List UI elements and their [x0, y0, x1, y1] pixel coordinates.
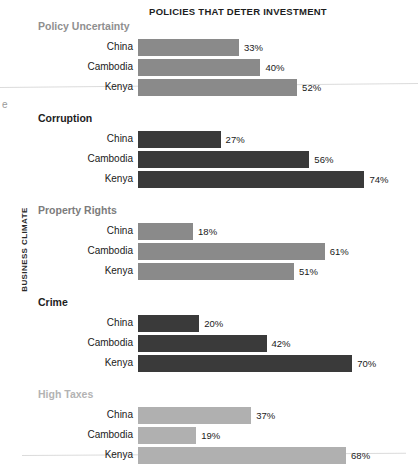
bar-value-label: 27%	[226, 134, 245, 145]
bar-category-label: China	[0, 225, 133, 236]
bar-value-label: 68%	[351, 450, 370, 461]
bar	[138, 59, 260, 76]
bar	[138, 335, 267, 352]
bar-value-label: 33%	[244, 42, 263, 53]
bar-row: Kenya70%	[0, 355, 418, 372]
chart-group: Policy UncertaintyChina33%Cambodia40%Ken…	[0, 20, 418, 99]
bar-value-label: 74%	[369, 174, 388, 185]
bar-category-label: Cambodia	[0, 153, 133, 164]
bar	[138, 243, 325, 260]
bar	[138, 39, 239, 56]
bar-row: Kenya74%	[0, 171, 418, 188]
bar-value-label: 19%	[201, 430, 220, 441]
bar-value-label: 37%	[256, 410, 275, 421]
bar-category-label: China	[0, 317, 133, 328]
chart-title: POLICIES THAT DETER INVESTMENT	[118, 6, 358, 17]
bar-row: Kenya52%	[0, 79, 418, 96]
chart-group: CorruptionChina27%Cambodia56%Kenya74%	[0, 112, 418, 191]
bar	[138, 151, 309, 168]
bar-value-label: 40%	[265, 62, 284, 73]
bar-category-label: Kenya	[0, 449, 133, 460]
bar-row: China27%	[0, 131, 418, 148]
bar-category-label: Cambodia	[0, 61, 133, 72]
chart-group: High TaxesChina37%Cambodia19%Kenya68%	[0, 388, 418, 467]
bar-category-label: Cambodia	[0, 337, 133, 348]
bar-row: Cambodia61%	[0, 243, 418, 260]
bar-value-label: 20%	[204, 318, 223, 329]
bar-row: China18%	[0, 223, 418, 240]
bar-row: Kenya51%	[0, 263, 418, 280]
bar	[138, 315, 199, 332]
group-header: Property Rights	[38, 204, 117, 216]
group-header: Crime	[38, 296, 68, 308]
bar-row: Cambodia40%	[0, 59, 418, 76]
group-header: High Taxes	[38, 388, 93, 400]
bar-value-label: 56%	[314, 154, 333, 165]
bar	[138, 223, 193, 240]
bar-row: Cambodia42%	[0, 335, 418, 352]
bar	[138, 79, 297, 96]
group-header: Policy Uncertainty	[38, 20, 130, 32]
bar	[138, 171, 364, 188]
bar	[138, 131, 221, 148]
bar-category-label: Kenya	[0, 265, 133, 276]
bar-category-label: Cambodia	[0, 429, 133, 440]
bar-row: China33%	[0, 39, 418, 56]
bar	[138, 355, 352, 372]
bar	[138, 263, 294, 280]
bar-value-label: 52%	[302, 82, 321, 93]
bar	[138, 427, 196, 444]
bar-category-label: Kenya	[0, 357, 133, 368]
bar-chart: POLICIES THAT DETER INVESTMENT BUSINESS …	[0, 0, 418, 468]
bar-value-label: 18%	[198, 226, 217, 237]
bar-value-label: 42%	[272, 338, 291, 349]
bar-category-label: Kenya	[0, 81, 133, 92]
bar-category-label: Kenya	[0, 173, 133, 184]
bar-category-label: Cambodia	[0, 245, 133, 256]
bar-row: Kenya68%	[0, 447, 418, 464]
bar	[138, 407, 251, 424]
chart-group: Property RightsChina18%Cambodia61%Kenya5…	[0, 204, 418, 283]
bar-value-label: 51%	[299, 266, 318, 277]
bar	[138, 447, 346, 464]
group-header: Corruption	[38, 112, 92, 124]
bar-category-label: China	[0, 409, 133, 420]
chart-group: CrimeChina20%Cambodia42%Kenya70%	[0, 296, 418, 375]
bar-row: Cambodia19%	[0, 427, 418, 444]
bar-row: China20%	[0, 315, 418, 332]
bar-value-label: 70%	[357, 358, 376, 369]
bar-row: China37%	[0, 407, 418, 424]
bar-value-label: 61%	[330, 246, 349, 257]
bar-category-label: China	[0, 133, 133, 144]
bar-row: Cambodia56%	[0, 151, 418, 168]
bar-category-label: China	[0, 41, 133, 52]
